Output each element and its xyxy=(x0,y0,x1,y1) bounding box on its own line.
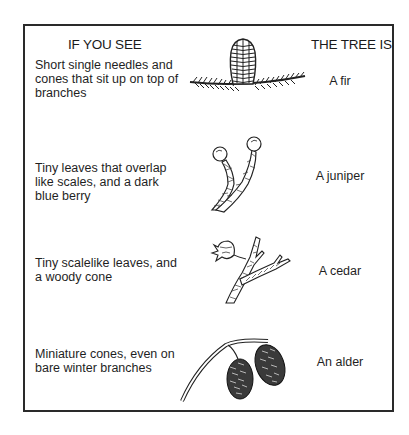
header-if-you-see: IF YOU SEE xyxy=(68,37,142,52)
cedar-illustration xyxy=(210,233,295,305)
row-cedar-description: Tiny scalelike leaves, and a woody cone xyxy=(35,256,185,284)
alder-illustration xyxy=(178,335,298,405)
row-juniper-tree: A juniper xyxy=(300,169,380,183)
row-juniper-description: Tiny leaves that overlap like scales, an… xyxy=(35,161,185,203)
fir-cone-illustration xyxy=(185,38,310,100)
row-fir-description: Short single needles and cones that sit … xyxy=(35,58,185,100)
juniper-illustration xyxy=(204,134,274,214)
row-alder-description: Miniature cones, even on bare winter bra… xyxy=(35,347,185,375)
row-alder-tree: An alder xyxy=(300,355,380,369)
header-the-tree-is: THE TREE IS xyxy=(311,37,392,52)
row-fir-tree: A fir xyxy=(300,74,380,88)
row-cedar-tree: A cedar xyxy=(300,264,380,278)
